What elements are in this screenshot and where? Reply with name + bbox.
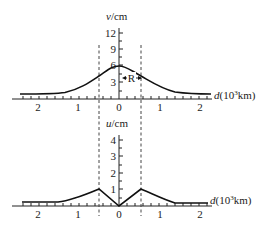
top-ytick-6: 6: [111, 59, 117, 71]
top-xtick-1: 1: [157, 101, 163, 113]
bottom-plot: 1 2 3 4 2 1 0 1 2 u/cm d(103km): [12, 116, 252, 220]
bottom-xtick-2: 2: [197, 208, 203, 220]
bottom-xtick-0: 0: [116, 208, 122, 220]
bottom-xtick-1: 1: [157, 208, 163, 220]
top-xtick-0: 0: [116, 101, 122, 113]
bottom-xtick-neg2: 2: [35, 208, 41, 220]
bottom-y-ticks: [119, 140, 123, 198]
diagram-canvas: 3 6 9 12 2 1 0 1 2 v/cm d(103km) R: [0, 0, 261, 232]
top-y-label: v/cm: [106, 10, 128, 22]
top-y-ticks: [119, 33, 123, 91]
bottom-x-label: d(103km): [210, 194, 252, 207]
bottom-ytick-4: 4: [111, 134, 117, 146]
top-xtick-2: 2: [197, 101, 203, 113]
top-ytick-9: 9: [111, 43, 117, 55]
bottom-ytick-1: 1: [111, 183, 117, 195]
radius-label: R: [128, 72, 136, 84]
top-ytick-3: 3: [111, 76, 117, 88]
top-xtick-neg2: 2: [35, 101, 41, 113]
bottom-ytick-3: 3: [111, 150, 117, 162]
bottom-xtick-neg1: 1: [75, 208, 81, 220]
top-x-label: d(103km): [214, 89, 256, 102]
radius-annotation: R: [122, 72, 142, 84]
top-xtick-neg1: 1: [75, 101, 81, 113]
top-plot: 3 6 9 12 2 1 0 1 2 v/cm d(103km) R: [12, 10, 256, 116]
bottom-y-label: u/cm: [106, 117, 128, 129]
bottom-ytick-2: 2: [111, 167, 117, 179]
top-ytick-12: 12: [105, 27, 116, 39]
